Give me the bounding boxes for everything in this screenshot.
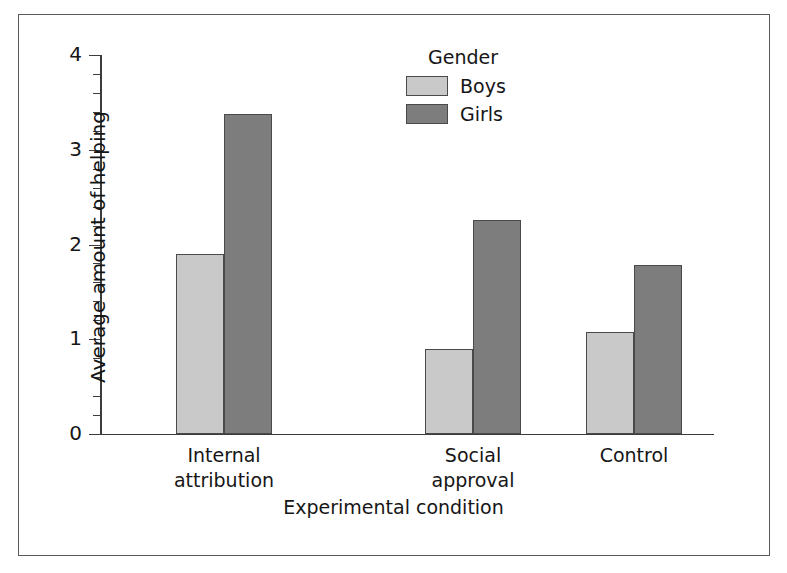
- y-axis-title: Average amount of helping: [86, 77, 110, 417]
- legend-label-girls: Girls: [460, 103, 503, 125]
- legend: Gender Boys Girls: [406, 46, 606, 131]
- y-axis-major-tick: [89, 55, 100, 56]
- y-axis-major-tick: [89, 434, 100, 435]
- y-tick-label: 4: [48, 44, 82, 64]
- bar-boys-group-2: [425, 349, 473, 434]
- x-group-label-1: Internal attribution: [114, 443, 334, 493]
- y-tick-label: 3: [48, 139, 82, 159]
- legend-item-girls: Girls: [406, 103, 606, 125]
- y-tick-label: 0: [48, 423, 82, 443]
- y-tick-label-text: 3: [48, 139, 82, 159]
- y-tick-label-text: 4: [48, 44, 82, 64]
- legend-swatch-girls: [406, 104, 448, 124]
- y-tick-label: 2: [48, 234, 82, 254]
- y-tick-label-text: 1: [48, 328, 82, 348]
- bar-girls-group-1: [224, 114, 272, 434]
- bar-boys-group-1: [176, 254, 224, 434]
- x-group-label-3: Control: [524, 443, 744, 468]
- legend-title: Gender: [428, 46, 606, 68]
- bar-girls-group-3: [634, 265, 682, 434]
- x-axis-title: Experimental condition: [0, 496, 787, 518]
- bar-boys-group-3: [586, 332, 634, 434]
- y-tick-label-text: 0: [48, 423, 82, 443]
- bar-chart-plot-area: 01234 Average amount of helping Internal…: [0, 0, 787, 573]
- legend-swatch-boys: [406, 76, 448, 96]
- y-axis-minor-tick: [93, 74, 100, 75]
- figure-container: 01234 Average amount of helping Internal…: [0, 0, 787, 573]
- y-tick-label-text: 2: [48, 234, 82, 254]
- bar-girls-group-2: [473, 220, 521, 434]
- legend-label-boys: Boys: [460, 75, 506, 97]
- legend-item-boys: Boys: [406, 75, 606, 97]
- y-tick-label: 1: [48, 328, 82, 348]
